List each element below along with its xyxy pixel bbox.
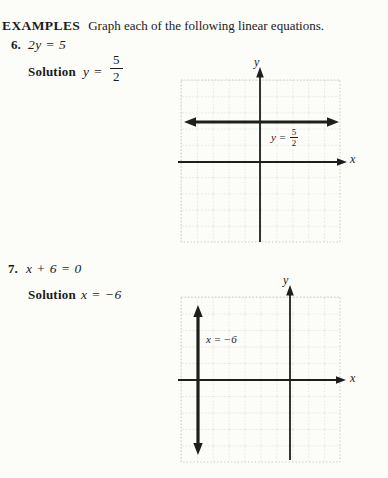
graph-x-equals-minus-6: y x x = −6: [175, 272, 365, 470]
problem-7-solution-label: Solution: [28, 287, 76, 303]
instruction-text: Graph each of the following linear equat…: [88, 18, 324, 33]
graph-y-equals-5-halves: y x y = 5 2: [178, 56, 360, 248]
problem-6-number: 6.: [11, 37, 21, 53]
graph1-line-annotation: y = 5 2: [271, 128, 298, 149]
problem-7-number: 7.: [8, 261, 18, 277]
problem-6-equation: 2y = 5: [28, 37, 66, 53]
problem-6-solution-label: Solution: [28, 64, 76, 80]
problem-7-solution-value: x = −6: [81, 287, 122, 303]
problem-6-solution-lhs: y =: [83, 64, 103, 80]
graph1-x-axis-label: x: [350, 152, 355, 167]
graph2-line-annotation: x = −6: [206, 333, 237, 345]
graph1-y-axis-label: y: [254, 55, 259, 70]
graph2-x-axis-label: x: [350, 371, 355, 386]
fraction-numerator: 5: [110, 53, 123, 69]
problem-6-solution-fraction: 5 2: [110, 53, 123, 85]
fraction-denominator: 2: [110, 69, 123, 84]
annotation-fraction-numerator: 5: [290, 128, 299, 138]
graph2-x-axis-arrowhead: [336, 376, 346, 383]
graph2-y-axis-label: y: [283, 273, 288, 288]
graph2-canvas: [175, 272, 365, 470]
graph1-x-axis-arrowhead: [337, 158, 347, 165]
graph1-canvas: [178, 56, 360, 248]
examples-label: EXAMPLES: [2, 18, 80, 33]
textbook-page: EXAMPLESGraph each of the following line…: [0, 0, 388, 478]
annotation-lhs: y =: [271, 131, 286, 143]
examples-header: EXAMPLESGraph each of the following line…: [2, 18, 324, 34]
annotation-fraction-denominator: 2: [290, 138, 299, 148]
problem-7-equation: x + 6 = 0: [26, 261, 82, 277]
